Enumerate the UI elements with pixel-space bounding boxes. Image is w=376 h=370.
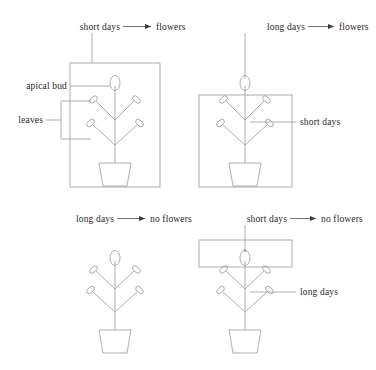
branch-upper-left <box>96 271 115 289</box>
label-result-p3: no flowers <box>150 214 192 224</box>
panel-top-right <box>199 27 334 188</box>
label-result-p2: flowers <box>339 22 369 32</box>
branch-upper-right <box>245 271 264 289</box>
label-long-days-p4: long days <box>300 287 338 297</box>
leader-leaves-bracket <box>46 101 91 139</box>
leaf-upper-right <box>261 94 271 104</box>
label-apical-bud-p1: apical bud <box>26 81 67 91</box>
branch-lower-left <box>223 125 245 145</box>
pot <box>229 163 261 186</box>
leaf-upper-left <box>218 264 228 274</box>
label-treatment-p2: long days <box>267 22 305 32</box>
leaf-upper-right <box>131 94 141 104</box>
branch-upper-right <box>115 271 134 289</box>
leaf-upper-right <box>131 264 141 274</box>
enclosure-box-apical-bud <box>199 240 292 267</box>
branch-upper-right <box>245 101 264 120</box>
photoperiodism-figure: short days flowers apical bud leaves lon… <box>0 0 376 370</box>
label-result-p4: no flowers <box>321 214 363 224</box>
plant-bottom-left <box>85 251 144 354</box>
label-leaves-p1: leaves <box>18 115 43 125</box>
branch-lower-left <box>223 292 245 312</box>
panel-bottom-right <box>199 219 316 354</box>
branch-upper-left <box>226 101 245 120</box>
branch-lower-right <box>115 125 137 145</box>
branch-lower-left <box>93 292 115 312</box>
label-short-days-p2: short days <box>300 117 340 127</box>
branch-upper-right <box>115 101 134 120</box>
enclosure-box-plant-body <box>199 95 292 187</box>
plant-top-right <box>215 76 274 187</box>
branch-lower-right <box>245 125 267 145</box>
branch-upper-left <box>226 271 245 289</box>
panel-top-left <box>46 27 160 188</box>
pot <box>99 163 131 186</box>
pot <box>229 330 261 353</box>
pot <box>99 330 131 353</box>
label-result-p1: flowers <box>156 22 186 32</box>
diagram-canvas: short days flowers apical bud leaves lon… <box>0 0 376 370</box>
branch-lower-left <box>93 125 115 145</box>
branch-lower-right <box>115 292 137 312</box>
leaf-upper-left <box>218 94 228 104</box>
label-treatment-p4: short days <box>247 214 287 224</box>
leaf-upper-left <box>88 264 98 274</box>
label-treatment-p3: long days <box>76 214 114 224</box>
plant-top-left <box>85 76 144 187</box>
label-treatment-p1: short days <box>80 22 120 32</box>
leaf-upper-left <box>88 94 98 104</box>
panel-bottom-left <box>85 219 145 354</box>
leaf-upper-right <box>261 264 271 274</box>
plant-bottom-right <box>215 251 274 354</box>
branch-upper-left <box>96 101 115 120</box>
branch-lower-right <box>245 292 267 312</box>
